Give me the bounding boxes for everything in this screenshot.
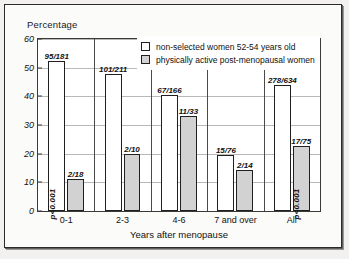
x-tick-label: 7 and over — [214, 215, 257, 225]
bar-value-label: 95/181 — [45, 52, 69, 61]
figure-frame: Percentage 010203040506095/181p<0.0012/1… — [4, 4, 342, 248]
legend-item-non-selected: non-selected women 52-54 years old — [141, 40, 315, 53]
y-tick-mark — [38, 211, 42, 212]
bar-value-label: 2/18 — [68, 170, 84, 179]
bar-value-label: 15/76 — [216, 146, 236, 155]
bar: 95/181p<0.001 — [48, 61, 65, 212]
bar: 11/33 — [180, 116, 197, 211]
chart-legend: non-selected women 52-54 years old physi… — [137, 36, 320, 70]
legend-item-physically-active: physically active post-menopausal women — [141, 53, 315, 66]
bar-value-label: 2/10 — [124, 145, 140, 154]
group-separator — [94, 39, 95, 211]
y-tick-mark — [38, 96, 42, 97]
y-tick-label: 20 — [24, 149, 34, 159]
x-tick-label: 2-3 — [116, 215, 129, 225]
x-tick-label: All — [287, 215, 297, 225]
bar: 2/14 — [236, 170, 253, 211]
x-tick-label: 4-6 — [172, 215, 185, 225]
y-tick-mark — [38, 67, 42, 68]
y-tick-label: 40 — [24, 91, 34, 101]
bar-value-label: 11/33 — [179, 107, 198, 116]
bar-value-label: 278/634 — [268, 76, 297, 85]
y-tick-label: 30 — [24, 120, 34, 130]
y-tick-label: 0 — [29, 206, 34, 216]
bar: 67/166 — [161, 95, 178, 211]
y-tick-mark — [38, 182, 42, 183]
legend-swatch-gray-icon — [141, 55, 150, 64]
p-value-annotation: p<0.001 — [48, 189, 57, 220]
bar: 17/75p<0.001 — [293, 146, 310, 211]
y-tick-mark — [38, 125, 42, 126]
bar: 278/634 — [274, 85, 291, 211]
y-tick-label: 50 — [24, 63, 34, 73]
bar: 101/211 — [105, 74, 122, 211]
bar: 2/10 — [124, 154, 141, 211]
y-axis-title: Percentage — [27, 19, 78, 30]
y-tick-mark — [38, 153, 42, 154]
bar-value-label: 17/75 — [291, 137, 311, 146]
bar: 2/18 — [67, 179, 84, 211]
y-tick-label: 60 — [24, 34, 34, 44]
bar-value-label: 101/211 — [99, 65, 127, 74]
chart-figure: Percentage 010203040506095/181p<0.0012/1… — [0, 0, 349, 259]
legend-swatch-white-icon — [141, 42, 150, 51]
y-tick-mark — [38, 39, 42, 40]
legend-label: physically active post-menopausal women — [156, 55, 315, 65]
bar-value-label: 2/14 — [237, 161, 253, 170]
x-tick-label: 0-1 — [60, 215, 73, 225]
bar-value-label: 67/166 — [157, 86, 181, 95]
legend-label: non-selected women 52-54 years old — [156, 42, 295, 52]
x-axis-title: Years after menopause — [37, 229, 321, 240]
bar: 15/76 — [217, 155, 234, 211]
y-tick-label: 10 — [24, 177, 34, 187]
